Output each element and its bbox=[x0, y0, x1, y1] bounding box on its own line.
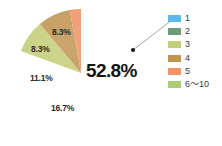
chart-plot-area: 52.8% 16.7% 11.1% 8.3% 8.3% bbox=[0, 0, 160, 146]
chart-legend: 1 2 3 4 5 6〜10 bbox=[168, 12, 222, 91]
slice-value-label-2: 16.7% bbox=[51, 103, 74, 113]
legend-item-4[interactable]: 4 bbox=[168, 52, 222, 65]
pie-chart-figure: 52.8% 16.7% 11.1% 8.3% 8.3% 1 2 3 4 bbox=[0, 0, 222, 146]
legend-swatch-icon-6-10 bbox=[168, 81, 181, 88]
legend-label-1: 1 bbox=[185, 14, 190, 23]
legend-item-1[interactable]: 1 bbox=[168, 12, 222, 25]
legend-label-6-10: 6〜10 bbox=[185, 80, 209, 89]
legend-label-4: 4 bbox=[185, 54, 190, 63]
legend-item-6-10[interactable]: 6〜10 bbox=[168, 78, 222, 91]
legend-swatch-icon-1 bbox=[168, 15, 181, 22]
callout-dot bbox=[131, 48, 135, 52]
slice-value-label-3: 8.3% bbox=[31, 44, 50, 54]
legend-label-5: 5 bbox=[185, 67, 190, 76]
slice-value-label-1: 52.8% bbox=[86, 60, 137, 82]
legend-item-3[interactable]: 3 bbox=[168, 38, 222, 51]
legend-item-2[interactable]: 2 bbox=[168, 25, 222, 38]
legend-item-5[interactable]: 5 bbox=[168, 65, 222, 78]
legend-label-2: 2 bbox=[185, 27, 190, 36]
legend-swatch-icon-5 bbox=[168, 68, 181, 75]
legend-swatch-icon-2 bbox=[168, 28, 181, 35]
slice-value-label-4: 8.3% bbox=[52, 27, 71, 37]
legend-swatch-icon-4 bbox=[168, 55, 181, 62]
legend-label-3: 3 bbox=[185, 40, 190, 49]
slice-value-label-6-10: 11.1% bbox=[30, 73, 53, 83]
legend-swatch-icon-3 bbox=[168, 41, 181, 48]
